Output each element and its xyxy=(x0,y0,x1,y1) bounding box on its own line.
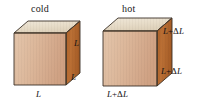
hot-depth-label: L+ΔL xyxy=(161,66,182,76)
hot-cube-group: hot L+ΔL L+ΔL L+ΔL xyxy=(0,0,207,108)
hot-cube-drawing xyxy=(0,0,207,108)
hot-width-label: L+ΔL xyxy=(107,89,128,99)
hot-height-label: L+ΔL xyxy=(163,26,184,36)
thermal-expansion-figure: cold xyxy=(0,0,207,108)
